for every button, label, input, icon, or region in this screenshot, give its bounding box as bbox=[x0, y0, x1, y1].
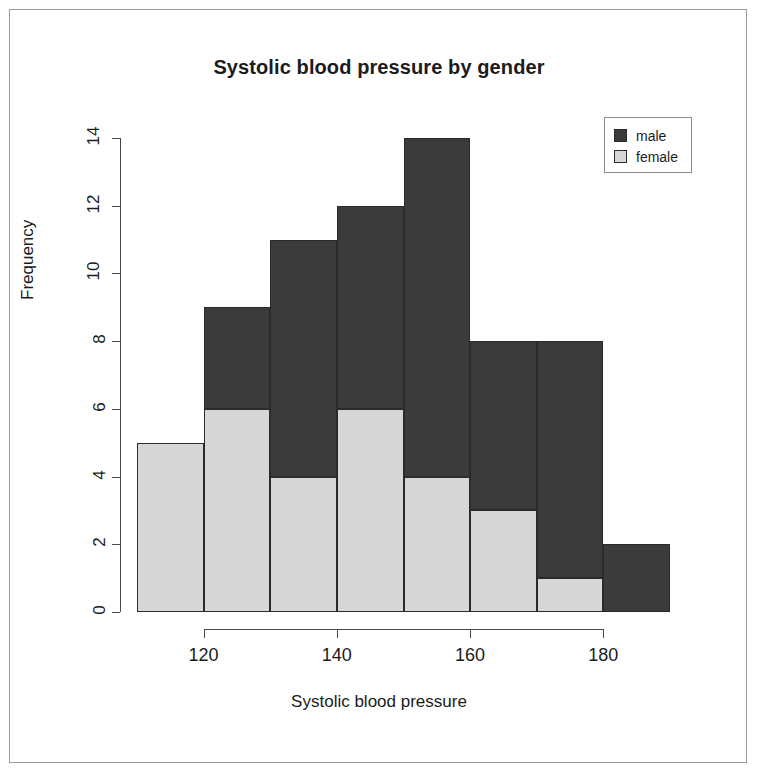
histogram-bar bbox=[603, 544, 670, 612]
histogram-bar bbox=[537, 341, 604, 612]
y-axis-tick-label: 4 bbox=[0, 465, 104, 485]
y-axis-tick bbox=[112, 206, 120, 207]
y-axis-tick bbox=[112, 341, 120, 342]
y-axis-line bbox=[120, 138, 121, 612]
bar-segment-female bbox=[270, 477, 337, 612]
x-axis-line bbox=[204, 629, 603, 630]
bar-segment-male bbox=[537, 341, 604, 578]
bar-segment-female bbox=[470, 510, 537, 612]
histogram-bar bbox=[137, 443, 204, 612]
x-axis-tick-label: 120 bbox=[164, 645, 244, 666]
x-axis-tick bbox=[204, 629, 205, 638]
bar-segment-female bbox=[204, 409, 271, 612]
legend-swatch-female bbox=[614, 150, 627, 163]
y-axis-tick-label: 0 bbox=[0, 600, 104, 620]
bar-segment-male bbox=[204, 307, 271, 409]
y-axis-tick-label: 10 bbox=[0, 261, 104, 281]
histogram-bar bbox=[270, 240, 337, 612]
bar-segment-male bbox=[337, 206, 404, 409]
y-axis-tick bbox=[112, 138, 120, 139]
x-axis-tick-label: 160 bbox=[430, 645, 510, 666]
legend-swatch-male bbox=[614, 129, 627, 142]
x-axis-tick bbox=[337, 629, 338, 638]
bar-segment-female bbox=[337, 409, 404, 612]
y-axis-tick-label: 14 bbox=[0, 126, 104, 146]
legend-item: female bbox=[614, 146, 691, 167]
y-axis-tick bbox=[112, 409, 120, 410]
legend: malefemale bbox=[604, 117, 692, 173]
y-axis-tick-label: 12 bbox=[0, 194, 104, 214]
histogram-bar bbox=[337, 206, 404, 612]
bar-segment-female bbox=[404, 477, 471, 612]
x-axis-tick-label: 140 bbox=[297, 645, 377, 666]
x-axis-tick bbox=[603, 629, 604, 638]
y-axis-title: Frequency bbox=[18, 220, 38, 300]
y-axis-tick-label: 8 bbox=[0, 329, 104, 349]
y-axis-tick bbox=[112, 612, 120, 613]
plot-area bbox=[137, 138, 670, 612]
bar-segment-male bbox=[470, 341, 537, 510]
x-axis-tick-label: 180 bbox=[563, 645, 643, 666]
legend-label-female: female bbox=[636, 149, 678, 165]
bar-segment-male bbox=[603, 544, 670, 612]
x-axis-tick bbox=[470, 629, 471, 638]
legend-item: male bbox=[614, 125, 691, 146]
y-axis-tick bbox=[112, 477, 120, 478]
y-axis-tick bbox=[112, 273, 120, 274]
y-axis-tick bbox=[112, 544, 120, 545]
histogram-bar bbox=[204, 307, 271, 612]
y-axis-tick-label: 2 bbox=[0, 532, 104, 552]
y-axis-tick-label: 6 bbox=[0, 397, 104, 417]
chart-title: Systolic blood pressure by gender bbox=[0, 56, 758, 79]
bar-segment-male bbox=[404, 138, 471, 477]
legend-label-male: male bbox=[636, 128, 666, 144]
histogram-bar bbox=[404, 138, 471, 612]
histogram-bar bbox=[470, 341, 537, 612]
bar-segment-male bbox=[270, 240, 337, 477]
bar-segment-female bbox=[137, 443, 204, 612]
x-axis-title: Systolic blood pressure bbox=[0, 692, 758, 712]
figure-page: Systolic blood pressure by gender Freque… bbox=[0, 0, 758, 774]
bar-segment-female bbox=[537, 578, 604, 612]
